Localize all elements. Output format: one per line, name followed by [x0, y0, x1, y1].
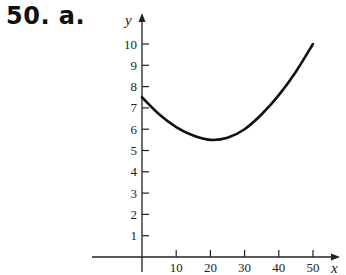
y-tick-label: 8 — [131, 79, 138, 94]
x-tick-label: 20 — [204, 260, 217, 275]
y-tick-label: 1 — [131, 228, 138, 243]
y-axis-arrow-icon — [139, 13, 146, 22]
x-tick-label: 10 — [170, 260, 183, 275]
y-tick-label: 7 — [131, 100, 138, 115]
y-tick-label: 2 — [131, 207, 138, 222]
y-tick-label: 4 — [131, 164, 138, 179]
ticks: 123456789101020304050 — [124, 37, 320, 275]
y-axis-label: y — [123, 12, 132, 28]
y-tick-label: 3 — [131, 186, 138, 201]
x-tick-label: 30 — [238, 260, 251, 275]
x-tick-label: 40 — [272, 260, 285, 275]
y-tick-label: 6 — [131, 122, 138, 137]
x-axis-label: x — [330, 260, 338, 275]
chart: yx 123456789101020304050 — [0, 0, 346, 275]
y-tick-label: 10 — [124, 37, 137, 52]
data-curve — [142, 44, 313, 140]
y-tick-label: 5 — [131, 143, 138, 158]
y-tick-label: 9 — [131, 58, 138, 73]
x-tick-label: 50 — [307, 260, 320, 275]
